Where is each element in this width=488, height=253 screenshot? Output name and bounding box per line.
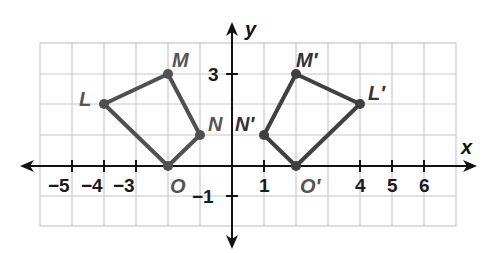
tick-label-x-minus5: −5 [48,175,70,196]
tick-label-x-minus3: −3 [113,175,135,196]
point-L [99,99,109,109]
label-N-prime: N′ [235,113,255,135]
coordinate-plane-figure: x y −5 −4 −3 1 4 5 6 3 −1 L M N O [0,0,488,253]
quadrilateral-LMNO [99,69,205,171]
tick-label-x-4: 4 [355,175,366,196]
quadrilateral-LMNO-prime [259,69,365,171]
tick-label-x-5: 5 [387,175,398,196]
tick-label-y-minus1: −1 [192,186,214,207]
tick-label-x-6: 6 [419,175,430,196]
point-N-prime [259,130,269,140]
tick-label-y-3: 3 [208,64,219,85]
label-M-prime: M′ [296,49,319,71]
x-axis [20,160,477,172]
tick-label-x-minus4: −4 [81,175,103,196]
x-axis-label: x [460,136,473,158]
point-N [195,130,205,140]
label-M: M [172,49,190,71]
label-L-prime: L′ [368,82,386,104]
point-L-prime [355,99,365,109]
y-axis-label: y [244,18,257,40]
tick-label-x-1: 1 [259,175,270,196]
point-O [163,161,173,171]
label-L: L [79,88,91,110]
point-O-prime [291,161,301,171]
coordinate-plane: x y −5 −4 −3 1 4 5 6 3 −1 L M N O [0,0,488,253]
label-O: O [170,175,186,197]
label-O-prime: O′ [300,175,322,197]
label-N: N [208,113,223,135]
